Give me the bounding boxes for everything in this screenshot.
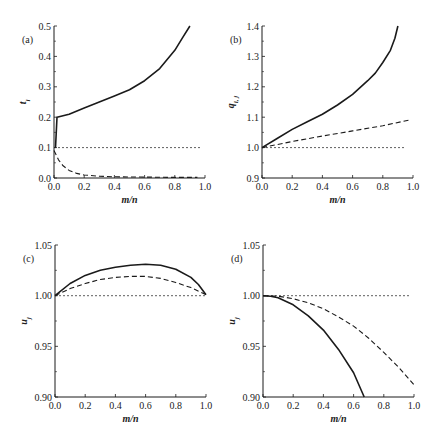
x-tick-label: 0.4 (317, 400, 330, 411)
x-tick-label: 0.6 (346, 181, 359, 192)
figure: 0.00.20.40.60.81.00.00.10.20.30.40.5(a)m… (0, 0, 440, 441)
y-tick-label: 1.00 (243, 290, 261, 301)
y-tick-label: 0.95 (243, 341, 261, 352)
x-tick-label: 0.8 (377, 181, 390, 192)
x-tick-label: 0.8 (170, 400, 183, 411)
y-tick-label: 0.9 (247, 173, 260, 184)
x-tick-label: 0.2 (78, 181, 91, 192)
x-tick-label: 0.6 (139, 400, 152, 411)
series-solid-line (55, 264, 206, 295)
x-tick-label: 0.6 (138, 181, 151, 192)
y-tick-label: 0.3 (39, 81, 52, 92)
x-tick-label: 0.2 (79, 400, 92, 411)
x-tick-label: 0.8 (378, 400, 391, 411)
y-tick-label: 1.4 (247, 21, 260, 32)
y-tick-label: 0.2 (39, 112, 52, 123)
y-tick-label: 1.0 (247, 142, 260, 153)
y-tick-label: 0.90 (35, 392, 53, 403)
x-tick-label: 0.6 (347, 400, 360, 411)
x-tick-label: 0.2 (287, 400, 300, 411)
series-dashed-line (54, 151, 197, 178)
y-axis-title: ti (17, 100, 32, 105)
y-tick-label: 0.4 (39, 51, 52, 62)
panel-c: 0.00.20.40.60.81.00.900.951.001.05(c)m/n… (18, 240, 212, 425)
y-tick-label: 0.95 (35, 341, 53, 352)
y-tick-label: 0.90 (243, 392, 261, 403)
y-tick-label: 1.1 (247, 112, 260, 123)
y-tick-label: 1.05 (243, 240, 261, 251)
series-solid-line (263, 296, 364, 397)
panel-d: 0.00.20.40.60.81.00.900.951.001.05(d)m/n… (226, 240, 420, 425)
panel-b: 0.00.20.40.60.81.00.91.01.11.21.31.4(b)m… (225, 21, 419, 206)
y-axis-title: uj (18, 317, 33, 325)
y-tick-label: 1.05 (35, 240, 53, 251)
x-axis-title: m/n (330, 413, 347, 424)
x-axis-title: m/n (329, 194, 346, 205)
y-tick-label: 1.2 (247, 81, 260, 92)
y-tick-label: 0.1 (39, 142, 52, 153)
x-tick-label: 0.4 (316, 181, 329, 192)
y-tick-label: 1.3 (247, 51, 260, 62)
y-tick-label: 1.00 (35, 290, 53, 301)
series-dashed-line (263, 296, 414, 385)
y-tick-label: 0.5 (39, 21, 52, 32)
x-tick-label: 1.0 (199, 181, 212, 192)
x-axis-title: m/n (122, 413, 139, 424)
y-axis-title: uj (226, 317, 241, 325)
panel-label: (d) (231, 253, 243, 265)
x-tick-label: 1.0 (200, 400, 213, 411)
series-solid-line (262, 26, 398, 148)
y-tick-label: 0.0 (39, 173, 52, 184)
x-tick-label: 0.4 (108, 181, 121, 192)
y-axis-title: qi, j (225, 96, 240, 108)
panel-label: (c) (23, 253, 34, 265)
panel-label: (a) (22, 34, 33, 46)
panel-a: 0.00.20.40.60.81.00.00.10.20.30.40.5(a)m… (17, 21, 211, 206)
series-solid-line (56, 26, 190, 148)
panel-label: (b) (230, 34, 242, 46)
x-tick-label: 1.0 (408, 400, 421, 411)
x-tick-label: 0.4 (109, 400, 122, 411)
x-tick-label: 0.8 (169, 181, 182, 192)
x-tick-label: 0.2 (286, 181, 299, 192)
x-tick-label: 1.0 (407, 181, 420, 192)
x-axis-title: m/n (121, 194, 138, 205)
